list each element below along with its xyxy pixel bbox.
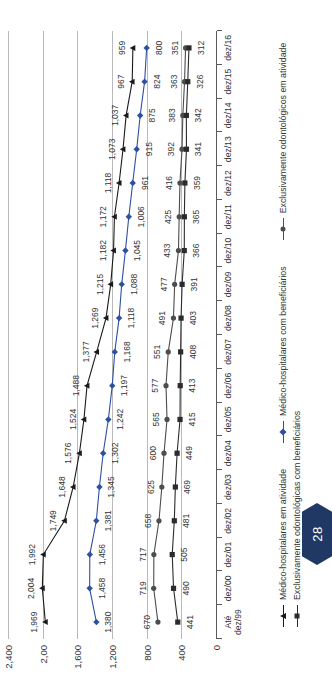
data-point-marker	[151, 552, 156, 557]
legend-item-3[interactable]: Exclusivamente odontológicas com benefic…	[292, 411, 302, 627]
x-axis-tick	[217, 199, 222, 200]
data-point-marker	[112, 349, 118, 355]
data-point-marker	[100, 450, 106, 456]
data-point-marker	[161, 451, 166, 456]
data-point-marker	[134, 146, 140, 152]
legend-marker-icon	[293, 605, 302, 627]
data-point-marker	[93, 518, 99, 524]
x-axis-tick	[217, 233, 222, 234]
x-axis-tick	[217, 165, 222, 166]
y-axis-tick-label: 2,00	[37, 645, 48, 687]
legend-marker-icon	[279, 218, 288, 240]
data-point-marker	[182, 214, 187, 219]
data-point-marker	[109, 382, 115, 388]
y-axis-tick-label: 400	[176, 645, 187, 687]
series-3	[170, 45, 192, 624]
data-point-marker	[180, 282, 185, 287]
data-point-marker	[171, 316, 176, 321]
series-1	[86, 45, 149, 626]
x-axis-tick-label: dez/02	[224, 508, 234, 534]
x-axis-tick-label: dez/08	[224, 305, 234, 331]
data-point-marker	[137, 112, 143, 118]
x-axis-tick-label: dez/04	[224, 440, 234, 466]
x-axis-tick	[217, 638, 222, 639]
data-point-marker	[170, 552, 175, 557]
x-axis-tick-label: dez/11	[224, 204, 234, 229]
legend-marker-icon	[279, 421, 288, 443]
data-point-marker	[122, 247, 128, 253]
data-point-marker	[184, 113, 189, 118]
x-axis-tick	[217, 300, 222, 301]
x-axis-tick	[217, 64, 222, 65]
legend-label: Exclusivamente odontológicas com benefic…	[292, 411, 302, 600]
x-axis-tick-label: dez/14	[224, 103, 234, 129]
data-point-marker	[61, 518, 67, 524]
data-point-marker	[156, 518, 161, 523]
chart-series-layer	[8, 31, 216, 639]
data-point-marker	[182, 248, 187, 253]
data-point-marker	[164, 417, 169, 422]
series-2	[151, 45, 188, 624]
x-axis-tick	[217, 604, 222, 605]
legend-item-0[interactable]: Médico-hospitalares em atividade	[278, 469, 288, 627]
legend-label: Médico-hospitalares em atividade	[278, 469, 288, 600]
data-point-marker	[105, 416, 111, 422]
data-point-marker	[141, 78, 147, 84]
data-point-marker	[178, 349, 183, 354]
data-point-marker	[186, 45, 191, 50]
chart-legend: Médico-hospitalares em atividadeMédico-h…	[278, 27, 302, 627]
data-point-marker	[166, 349, 171, 354]
data-point-marker	[178, 383, 183, 388]
data-point-marker	[175, 620, 180, 625]
x-axis-tick-label: dez/01	[224, 542, 234, 568]
data-point-marker	[119, 281, 125, 287]
data-point-marker	[126, 214, 132, 220]
page-number-badge: 28	[302, 503, 332, 565]
data-point-marker	[182, 180, 187, 185]
legend-label: Exclusivamente odontológicos em atividad…	[278, 43, 288, 214]
data-point-marker	[96, 484, 102, 490]
data-point-marker	[184, 147, 189, 152]
data-point-marker	[171, 586, 176, 591]
x-axis-tick-label: dez/13	[224, 136, 234, 162]
x-axis-tick	[217, 131, 222, 132]
legend-item-1[interactable]: Médico-hospitalares com beneficiários	[278, 266, 288, 443]
data-point-marker	[155, 620, 160, 625]
x-axis-tick	[217, 435, 222, 436]
x-axis-tick-label: dez/09	[224, 271, 234, 297]
data-point-marker	[151, 586, 156, 591]
data-point-marker	[172, 518, 177, 523]
x-axis-tick-label: Atédez/99	[224, 609, 243, 635]
data-point-marker	[116, 315, 122, 321]
legend-marker-icon	[279, 605, 288, 627]
y-axis-tick-label: 0	[211, 645, 222, 687]
x-axis-tick	[217, 402, 222, 403]
data-point-marker	[86, 585, 92, 591]
data-point-marker	[130, 180, 136, 186]
y-axis-tick-label: 1,200	[107, 645, 118, 687]
data-point-marker	[173, 484, 178, 489]
series-0	[39, 45, 135, 625]
x-axis-tick-label: dez/16	[224, 35, 234, 61]
data-point-marker	[179, 147, 184, 152]
x-axis-tick	[217, 266, 222, 267]
data-point-marker	[177, 180, 182, 185]
data-point-marker	[178, 316, 183, 321]
x-axis-tick	[217, 570, 222, 571]
x-axis-tick-label: dez/00	[224, 575, 234, 601]
x-axis-tick-label: dez/05	[224, 407, 234, 433]
data-point-marker	[87, 551, 93, 557]
data-point-marker	[177, 417, 182, 422]
x-axis-tick-label: dez/10	[224, 238, 234, 264]
data-point-marker	[159, 484, 164, 489]
data-point-marker	[176, 248, 181, 253]
y-axis-tick-label: 800	[141, 645, 152, 687]
x-axis-tick-label: dez/06	[224, 373, 234, 399]
plot-area: 1,9692,0041,9921,7491,6481,5761,5241,488…	[8, 31, 216, 639]
data-point-marker	[177, 214, 182, 219]
legend-item-2[interactable]: Exclusivamente odontológicos em atividad…	[278, 43, 288, 241]
data-point-marker	[185, 79, 190, 84]
x-axis-tick-label: dez/03	[224, 474, 234, 500]
